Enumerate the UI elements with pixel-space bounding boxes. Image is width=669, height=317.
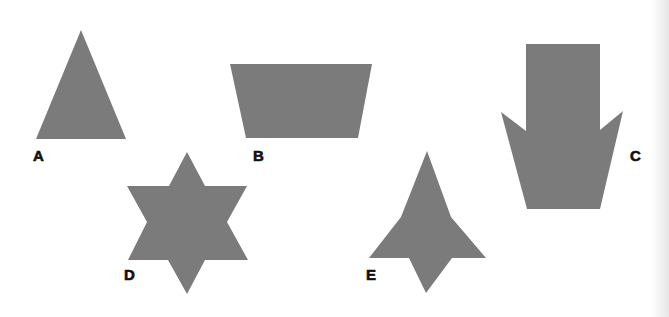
label-d: D — [124, 267, 135, 282]
label-e: E — [366, 267, 376, 282]
page-edge-shadow — [651, 0, 669, 317]
shape-b-trapezoid — [230, 64, 372, 138]
shape-c-arrow — [501, 44, 623, 209]
label-c: C — [630, 148, 641, 163]
label-a: A — [33, 148, 44, 163]
shape-a-triangle — [36, 30, 126, 139]
shapes-figure: A B C D E — [0, 0, 669, 317]
label-b: B — [253, 148, 264, 163]
shape-d-star — [127, 152, 248, 294]
shape-e-arrowhead — [369, 151, 486, 293]
shapes-svg — [0, 0, 669, 317]
